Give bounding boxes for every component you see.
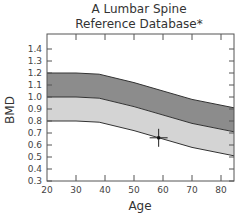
y-tick-label: 0.4 [28, 164, 43, 174]
y-tick-label: 0.8 [28, 116, 43, 126]
x-tick-label: 30 [70, 185, 82, 195]
y-tick-label: 1.3 [28, 56, 42, 66]
x-tick-label: 80 [215, 185, 227, 195]
y-axis-label: BMD [3, 96, 17, 124]
y-tick-label: 1.4 [28, 44, 43, 54]
y-tick-label: 1.2 [28, 68, 42, 78]
x-tick-label: 60 [157, 185, 169, 195]
y-tick-label: 0.3 [28, 176, 42, 186]
x-tick-label: 50 [128, 185, 140, 195]
y-tick-label: 0.7 [28, 128, 42, 138]
y-tick-label: 0.9 [28, 104, 43, 114]
y-tick-label: 0.6 [28, 140, 43, 150]
x-axis-label: Age [128, 199, 151, 213]
x-tick-label: 20 [41, 185, 53, 195]
bmd-chart: 0.30.40.50.60.70.80.91.01.11.21.31.42030… [0, 0, 238, 216]
y-tick-label: 1.1 [28, 80, 42, 90]
y-tick-label: 1.0 [28, 92, 43, 102]
y-tick-label: 0.5 [28, 152, 42, 162]
reference-bands [47, 73, 234, 156]
x-tick-label: 40 [99, 185, 111, 195]
x-tick-label: 70 [186, 185, 198, 195]
